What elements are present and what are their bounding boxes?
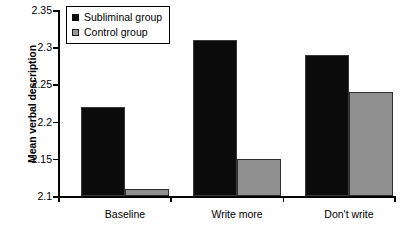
legend: Subliminal group Control group [66, 6, 170, 44]
bar-subliminal-dont-write [305, 55, 349, 196]
y-axis-line [58, 10, 60, 196]
x-tick-mark [394, 196, 396, 202]
y-tick-mark [53, 47, 58, 49]
y-tick-mark [53, 84, 58, 86]
bar-subliminal-write-more [193, 40, 237, 196]
y-tick-mark [53, 122, 58, 124]
legend-label: Control group [84, 27, 148, 38]
y-axis-tick-labels: 2.35 2.3 2.25 2.2 2.15 2.1 [22, 0, 52, 227]
legend-swatch-icon [72, 14, 79, 21]
bar-chart: Mean verbal description 2.35 2.3 2.25 2.… [0, 0, 400, 227]
legend-item-subliminal: Subliminal group [72, 10, 162, 25]
bar-control-write-more [237, 159, 281, 196]
bar-control-baseline [125, 189, 169, 196]
x-category-label-baseline: Baseline [105, 208, 145, 220]
y-tick-label: 2.35 [22, 4, 52, 16]
bar-control-dont-write [349, 92, 393, 196]
legend-swatch-icon [72, 29, 79, 36]
y-tick-mark [53, 159, 58, 161]
x-tick-mark [58, 196, 60, 202]
x-tick-mark [170, 196, 172, 202]
bar-subliminal-baseline [81, 107, 125, 196]
x-tick-mark [283, 196, 285, 202]
x-axis-line [58, 196, 395, 198]
y-tick-label: 2.1 [22, 190, 52, 202]
legend-label: Subliminal group [84, 12, 162, 23]
x-category-label-dont-write: Don't write [324, 208, 373, 220]
y-tick-mark [53, 10, 58, 12]
y-tick-label: 2.2 [22, 116, 52, 128]
y-tick-label: 2.25 [22, 78, 52, 90]
y-tick-label: 2.15 [22, 153, 52, 165]
legend-item-control: Control group [72, 25, 162, 40]
y-tick-label: 2.3 [22, 41, 52, 53]
x-category-label-write-more: Write more [211, 208, 262, 220]
